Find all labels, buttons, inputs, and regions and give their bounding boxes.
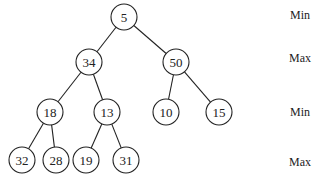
node-value: 50	[170, 55, 183, 70]
node-value: 13	[101, 105, 114, 120]
node-value: 19	[80, 153, 93, 168]
level-label-2: Min	[290, 105, 310, 120]
level-label-1: Max	[289, 51, 311, 66]
edge-13-31	[112, 124, 121, 148]
node-32: 32	[9, 147, 35, 173]
node-34: 34	[76, 49, 102, 75]
node-value: 10	[160, 105, 173, 120]
edge-34-13	[93, 74, 102, 100]
node-28: 28	[43, 147, 69, 173]
node-value: 15	[213, 105, 226, 120]
node-value: 32	[16, 153, 29, 168]
node-15: 15	[206, 99, 232, 125]
level-label-0: Min	[290, 8, 310, 23]
node-5: 5	[111, 4, 137, 30]
node-value: 31	[120, 153, 133, 168]
node-value: 5	[121, 10, 128, 25]
edge-34-18	[58, 72, 81, 101]
node-value: 28	[50, 153, 63, 168]
node-50: 50	[163, 49, 189, 75]
edge-5-34	[97, 27, 116, 51]
node-13: 13	[94, 99, 120, 125]
edge-50-15	[184, 72, 210, 102]
edge-18-28	[52, 125, 55, 147]
node-18: 18	[37, 99, 63, 125]
node-value: 34	[83, 55, 97, 70]
edge-5-50	[134, 26, 166, 54]
edge-13-19	[91, 124, 102, 148]
edges	[29, 26, 211, 149]
node-10: 10	[153, 99, 179, 125]
node-value: 18	[44, 105, 57, 120]
edge-50-10	[169, 75, 174, 100]
node-19: 19	[73, 147, 99, 173]
node-31: 31	[113, 147, 139, 173]
heap-tree: 534501813101532281931	[0, 0, 320, 177]
edge-18-32	[29, 123, 44, 149]
level-label-3: Max	[289, 155, 311, 170]
